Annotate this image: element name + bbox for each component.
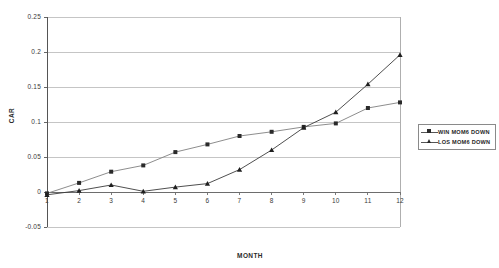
x-tick-label: 11 [358, 197, 378, 204]
legend-marker-square-icon [421, 128, 438, 137]
gridlines [47, 17, 400, 227]
x-tick-label: 7 [230, 197, 250, 204]
x-tick-label: 8 [262, 197, 282, 204]
x-tick-label: 6 [197, 197, 217, 204]
x-tick-label: 5 [165, 197, 185, 204]
chart-legend: WIN MOM6 DOWN LOS MOM6 DOWN [418, 124, 496, 150]
x-axis-title: MONTH [185, 252, 315, 259]
legend-item[interactable]: WIN MOM6 DOWN [421, 127, 494, 137]
x-tick-label: 3 [101, 197, 121, 204]
y-tick-label: 0.05 [7, 153, 41, 160]
y-axis-title: CAR [8, 96, 15, 136]
legend-item-label: LOS MOM6 DOWN [438, 139, 490, 145]
x-tick-label: 10 [326, 197, 346, 204]
data-series-layer [44, 52, 402, 197]
y-tick-label: 0.25 [7, 13, 41, 20]
y-tick-label: 0 [7, 188, 41, 195]
x-tick-label: 1 [37, 197, 57, 204]
legend-marker-triangle-icon [421, 138, 438, 147]
chart-container: 0.250.20.150.10.050-0.05 123456789101112… [0, 0, 499, 268]
x-tick-label: 12 [390, 197, 410, 204]
x-tick-label: 9 [294, 197, 314, 204]
x-tick-label: 2 [69, 197, 89, 204]
y-tick-label: 0.15 [7, 83, 41, 90]
legend-item-label: WIN MOM6 DOWN [438, 129, 490, 135]
y-tick-label: 0.2 [7, 48, 41, 55]
x-tick-label: 4 [133, 197, 153, 204]
y-tick-label: -0.05 [7, 223, 41, 230]
legend-item[interactable]: LOS MOM6 DOWN [421, 137, 494, 147]
